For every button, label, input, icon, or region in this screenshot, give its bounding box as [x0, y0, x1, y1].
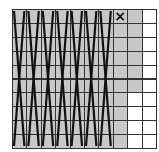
grid-cell: [113, 51, 128, 66]
grid-cell: [113, 134, 128, 149]
grid-cell: [113, 79, 128, 94]
grid-cell: [41, 92, 56, 107]
grid-cell: [84, 37, 99, 52]
grid-cell: [84, 92, 99, 107]
grid-cell: [12, 51, 27, 66]
grid-cell: [55, 23, 70, 38]
grid-cell: [26, 9, 41, 24]
grid-cell: [12, 106, 27, 121]
grid-cell: [26, 37, 41, 52]
grid-cell: [98, 51, 113, 66]
grid-cell: [26, 23, 41, 38]
grid-cell: [98, 134, 113, 149]
grid-cell: [84, 65, 99, 80]
grid-cell: [70, 37, 85, 52]
grid-cell: [70, 106, 85, 121]
grid-cell: [142, 92, 157, 107]
grid-cell: [113, 65, 128, 80]
grid-cell: [127, 23, 142, 38]
grid-cell: [26, 120, 41, 135]
grid-cell: [142, 37, 157, 52]
grid-cell: [142, 79, 157, 94]
grid-cell: [41, 37, 56, 52]
grid-cell: [142, 106, 157, 121]
grid-cell: [70, 134, 85, 149]
grid-cell: [70, 9, 85, 24]
grid-cell: [41, 51, 56, 66]
grid-cell: [127, 134, 142, 149]
grid-cell: [70, 120, 85, 135]
grid-cell: [55, 9, 70, 24]
grid-cell: [70, 65, 85, 80]
grid-cell: [84, 106, 99, 121]
grid-cell: [142, 120, 157, 135]
grid-cell: [142, 134, 157, 149]
grid-cell: [55, 51, 70, 66]
grid-cell: [84, 51, 99, 66]
grid-cell: [127, 79, 142, 94]
grid-cell: [70, 79, 85, 94]
grid-cell: [127, 120, 142, 135]
grid-cell: [127, 92, 142, 107]
grid-cell: [70, 92, 85, 107]
grid-cell: [55, 134, 70, 149]
grid-cell: [98, 92, 113, 107]
grid-cell: [41, 23, 56, 38]
grid-cell: [84, 120, 99, 135]
grid-cell: [26, 51, 41, 66]
x-mark-icon: ×: [113, 10, 127, 22]
grid-cell: [55, 37, 70, 52]
grid-cell: [127, 106, 142, 121]
grid-cell: [26, 65, 41, 80]
grid-cell: [84, 134, 99, 149]
grid-cell: [142, 23, 157, 38]
grid-cell: [41, 79, 56, 94]
grid-cell: [55, 92, 70, 107]
grid-cell: [84, 23, 99, 38]
grid-cell: [98, 23, 113, 38]
grid-cell: [70, 51, 85, 66]
grid-cell: [127, 37, 142, 52]
grid-cell: [12, 65, 27, 80]
grid-cell: [55, 120, 70, 135]
grid-cell: [113, 92, 128, 107]
grid-cell: [12, 120, 27, 135]
grid-cell: [55, 106, 70, 121]
grid-cell: [113, 106, 128, 121]
grid-cell: [113, 37, 128, 52]
grid-cell: [84, 79, 99, 94]
grid-cell: [127, 51, 142, 66]
grid-cell: [26, 79, 41, 94]
grid-cell: [41, 106, 56, 121]
grid-cell: [98, 120, 113, 135]
grid-cell: [142, 51, 157, 66]
grid-cell: [127, 65, 142, 80]
grid-cell: [142, 65, 157, 80]
grid-cell: [41, 120, 56, 135]
grid-cell: [12, 9, 27, 24]
grid-cell: [142, 9, 157, 24]
grid-cell: [113, 120, 128, 135]
grid-cell: [127, 9, 142, 24]
grid-cell: [113, 23, 128, 38]
grid-cell: [84, 9, 99, 24]
grid-cell: [12, 92, 27, 107]
grid-cell: [98, 106, 113, 121]
grid-cell: [12, 23, 27, 38]
grid-cell: [26, 92, 41, 107]
grid-diagram: ×: [12, 9, 156, 148]
grid-cell: [12, 79, 27, 94]
grid-cell: [26, 134, 41, 149]
grid-cell: [98, 65, 113, 80]
grid-cell: [26, 106, 41, 121]
grid-cell: [41, 134, 56, 149]
grid-cell: [70, 23, 85, 38]
grid-cell: [98, 37, 113, 52]
grid-cell: [98, 79, 113, 94]
grid-cell: [98, 9, 113, 24]
grid-cell: [41, 65, 56, 80]
grid-cell: [55, 79, 70, 94]
grid-cell: [12, 134, 27, 149]
grid-cell: [12, 37, 27, 52]
grid-cell: [41, 9, 56, 24]
